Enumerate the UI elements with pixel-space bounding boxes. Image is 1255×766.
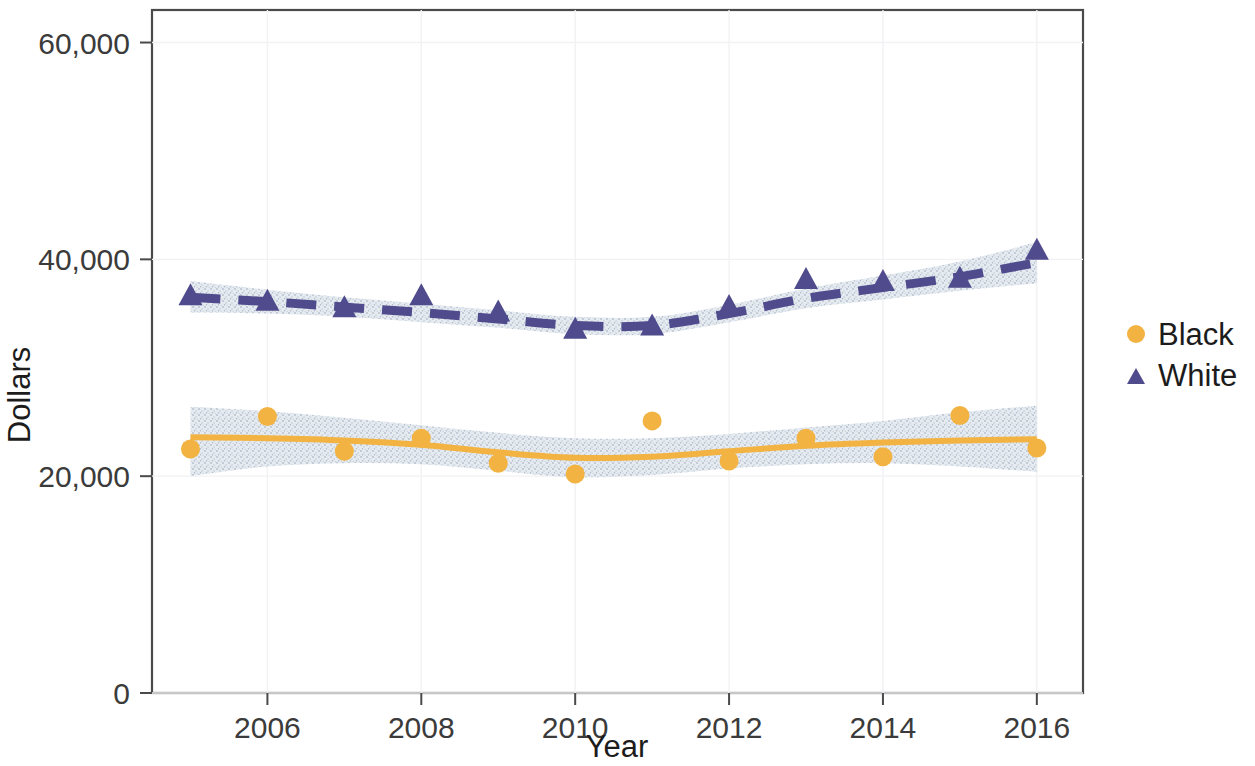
y-tick-label-0: 0 bbox=[113, 677, 130, 710]
x-tick-label-2016: 2016 bbox=[1003, 711, 1070, 744]
y-axis-title: Dollars bbox=[2, 347, 37, 443]
x-tick-label-2006: 2006 bbox=[234, 711, 301, 744]
legend-circle-marker-icon bbox=[1127, 325, 1145, 343]
data-point-black-2015 bbox=[950, 406, 969, 425]
data-point-black-2005 bbox=[181, 440, 200, 459]
y-axis-tick-labels: 020,00040,00060,000 bbox=[38, 27, 130, 710]
x-tick-label-2014: 2014 bbox=[850, 711, 917, 744]
legend-label-black: Black bbox=[1158, 317, 1234, 352]
data-point-black-2012 bbox=[720, 451, 739, 470]
data-point-black-2014 bbox=[873, 447, 892, 466]
data-point-black-2008 bbox=[412, 429, 431, 448]
plot-area-frame bbox=[152, 10, 1083, 693]
data-point-black-2009 bbox=[489, 454, 508, 473]
data-point-black-2006 bbox=[258, 407, 277, 426]
legend-triangle-marker-icon bbox=[1127, 368, 1145, 384]
data-point-black-2013 bbox=[797, 429, 816, 448]
data-point-black-2011 bbox=[643, 411, 662, 430]
y-tick-label-20000: 20,000 bbox=[38, 460, 130, 493]
data-point-black-2016 bbox=[1027, 438, 1046, 457]
data-point-black-2010 bbox=[566, 465, 585, 484]
x-axis-title: Year bbox=[586, 729, 649, 764]
chart-figure: 200620082010201220142016 020,00040,00060… bbox=[0, 0, 1255, 766]
x-tick-label-2008: 2008 bbox=[388, 711, 455, 744]
data-point-black-2007 bbox=[335, 442, 354, 461]
legend-label-white: White bbox=[1158, 358, 1237, 393]
chart-canvas: 200620082010201220142016 020,00040,00060… bbox=[0, 0, 1255, 766]
x-axis-tick-labels: 200620082010201220142016 bbox=[234, 711, 1070, 744]
y-tick-label-60000: 60,000 bbox=[38, 27, 130, 60]
y-tick-label-40000: 40,000 bbox=[38, 243, 130, 276]
chart-legend: Black White bbox=[1127, 317, 1237, 393]
x-tick-label-2012: 2012 bbox=[696, 711, 763, 744]
